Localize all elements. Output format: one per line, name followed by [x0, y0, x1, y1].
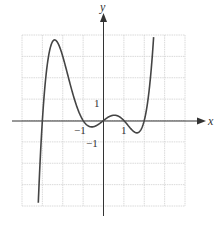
- y-axis-label: y: [99, 0, 106, 14]
- axes: [12, 13, 206, 216]
- y-axis-arrow-icon: [100, 13, 107, 22]
- x-axis-arrow-icon: [197, 118, 206, 125]
- x-tick-neg1: −1: [74, 124, 86, 136]
- x-axis-label: x: [207, 114, 214, 128]
- function-curve: [38, 37, 153, 203]
- y-tick-neg1: −1: [86, 137, 98, 149]
- x-tick-pos1: 1: [121, 124, 127, 136]
- y-tick-pos1: 1: [94, 97, 100, 109]
- function-graph: x y −1 1 1 −1: [0, 0, 218, 225]
